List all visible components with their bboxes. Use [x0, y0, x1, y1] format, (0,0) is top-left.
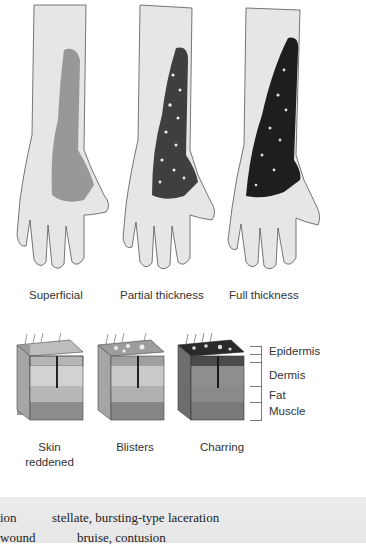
stage-label-superficial: Superficial	[29, 289, 83, 301]
layer-label-fat: Fat	[269, 389, 286, 401]
glossary-row-1-term: ion	[0, 510, 17, 526]
glossary-row-2-definition: bruise, contusion	[77, 530, 166, 546]
layer-label-muscle: Muscle	[269, 405, 305, 417]
layer-label-dermis: Dermis	[269, 369, 305, 381]
stage-label-partial-thickness: Partial thickness	[120, 289, 204, 301]
result-label-charring: Charring	[192, 440, 252, 455]
bracket-vertical-line	[261, 346, 262, 421]
skin-block-partial-thickness	[96, 330, 166, 425]
glossary-row-2-term: wound	[0, 530, 35, 546]
stage-label-full-thickness: Full thickness	[229, 289, 299, 301]
glossary-band: ion stellate, bursting-type laceration w…	[0, 497, 366, 543]
result-label-blisters: Blisters	[110, 440, 160, 455]
layer-label-epidermis: Epidermis	[269, 345, 320, 357]
hand-superficial-burn	[14, 0, 114, 272]
skin-block-full-thickness	[176, 330, 246, 425]
result-label-skin-reddened: Skin reddened	[22, 440, 77, 470]
glossary-row-1-definition: stellate, bursting-type laceration	[52, 510, 219, 526]
skin-block-superficial	[15, 330, 85, 425]
hand-full-thickness-burn	[222, 0, 322, 272]
hand-partial-thickness-burn	[118, 0, 218, 272]
